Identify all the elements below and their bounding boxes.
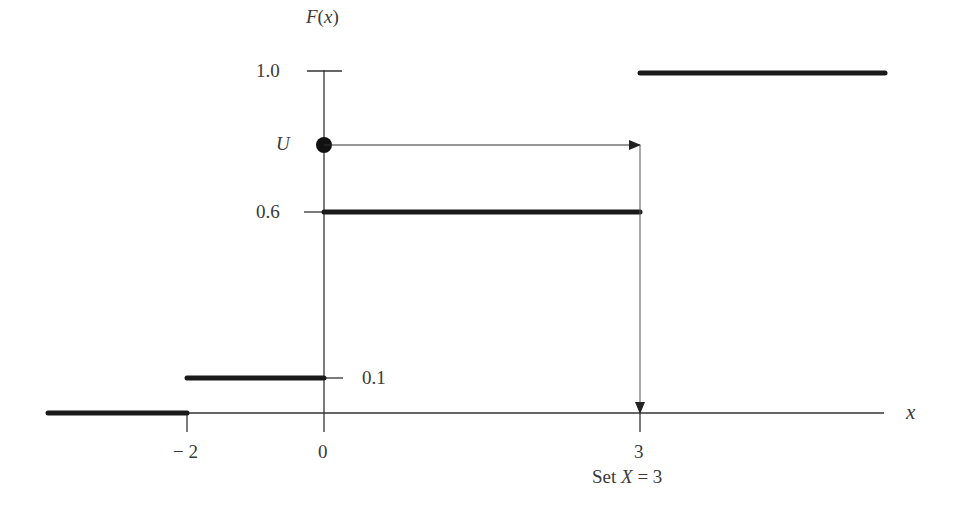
set-x-annotation: Set X = 3 (592, 466, 662, 488)
y-axis-label: F(x) (306, 6, 339, 28)
set-x-suffix: = 3 (633, 466, 663, 487)
cdf-chart (0, 0, 958, 518)
tick-label-neg2: − 2 (173, 441, 198, 463)
x-axis-label: x (906, 400, 915, 425)
set-x-prefix: Set (592, 466, 621, 487)
set-x-var: X (621, 466, 633, 487)
tick-label-U: U (276, 133, 290, 155)
tick-label-0-1: 0.1 (362, 367, 386, 389)
tick-label-0: 0 (318, 441, 328, 463)
tick-label-0-6: 0.6 (256, 201, 280, 223)
y-axis-label-F: F (306, 6, 318, 27)
tick-label-1-0: 1.0 (256, 60, 280, 82)
tick-label-3: 3 (634, 441, 644, 463)
y-axis-label-close: ) (332, 6, 338, 27)
